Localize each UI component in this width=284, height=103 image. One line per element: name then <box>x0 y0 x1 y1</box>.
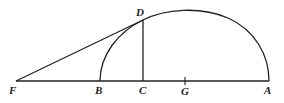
label-b: B <box>94 84 102 96</box>
label-g: G <box>181 85 189 97</box>
label-f: F <box>8 84 17 96</box>
geometry-diagram: F B C G A D <box>0 0 284 103</box>
label-d: D <box>135 6 144 18</box>
label-c: C <box>139 84 147 96</box>
label-a: A <box>263 84 271 96</box>
ellipse-arc <box>100 10 269 81</box>
tangent-line-fd <box>16 20 143 81</box>
